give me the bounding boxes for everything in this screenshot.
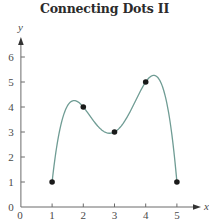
chart-plot-area: xy0123450123456	[0, 0, 209, 222]
data-points	[49, 79, 179, 185]
data-point	[49, 179, 55, 185]
data-point	[174, 179, 180, 185]
y-tick-label: 6	[8, 51, 14, 63]
x-tick-label: 0	[17, 209, 23, 221]
x-tick-label: 4	[143, 209, 149, 221]
x-axis-arrow-icon	[193, 204, 201, 210]
y-tick-label: 0	[8, 201, 14, 213]
y-tick-label: 4	[8, 101, 14, 113]
y-tick-label: 1	[8, 176, 14, 188]
y-tick-label: 5	[8, 76, 14, 88]
x-tick-label: 2	[81, 209, 87, 221]
data-point	[81, 104, 87, 110]
x-axis-label: x	[203, 200, 209, 212]
data-point	[112, 129, 118, 135]
x-tick-label: 3	[112, 209, 118, 221]
y-tick-label: 3	[8, 126, 14, 138]
interpolating-curve	[52, 75, 177, 182]
x-tick-label: 1	[49, 209, 55, 221]
y-tick-label: 2	[8, 151, 14, 163]
axes: xy0123450123456	[8, 21, 209, 221]
y-axis-label: y	[17, 21, 23, 33]
y-axis-arrow-icon	[18, 37, 24, 45]
data-point	[143, 79, 149, 85]
x-tick-label: 5	[174, 209, 180, 221]
